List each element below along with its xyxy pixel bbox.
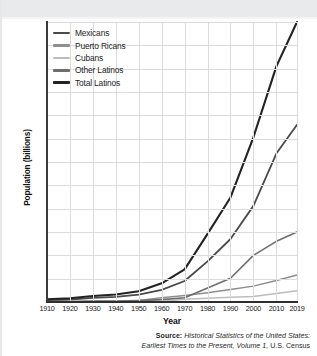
legend-label: Total Latinos [75, 78, 120, 88]
source-note: Source: Historical Statistics of the Uni… [110, 331, 316, 351]
x-axis-line [46, 301, 298, 303]
source-label: Source: [156, 332, 182, 340]
gridline-vertical [185, 22, 186, 302]
legend-item[interactable]: Total Latinos [53, 77, 165, 89]
legend-swatch-icon [53, 69, 70, 71]
gridline-vertical [276, 22, 277, 302]
legend-item[interactable]: Puerto Ricans [53, 39, 165, 51]
chart-legend: MexicansPuerto RicansCubansOther Latinos… [53, 27, 165, 89]
legend-swatch-icon [53, 57, 70, 59]
chart-page: 051015202530354045505560 191019201930194… [0, 0, 317, 356]
x-axis-title: Year [47, 316, 297, 326]
y-axis-title: Population (billions) [23, 93, 32, 243]
gridline-horizontal [47, 162, 297, 163]
gridline-horizontal [47, 92, 297, 93]
gridline-horizontal [47, 279, 297, 280]
legend-item[interactable]: Cubans [53, 52, 165, 64]
gridline-vertical [208, 22, 209, 302]
line-chart-figure: 051015202530354045505560 191019201930194… [0, 0, 317, 356]
series-line [47, 232, 297, 302]
source-title-line2: Earliest Times to the Present, Volume 1, [142, 342, 269, 350]
legend-label: Puerto Ricans [75, 41, 126, 51]
legend-label: Cubans [75, 53, 103, 63]
legend-label: Mexicans [75, 28, 109, 38]
gridline-horizontal [47, 22, 297, 23]
gridline-horizontal [47, 185, 297, 186]
gridline-horizontal [47, 255, 297, 256]
legend-swatch-icon [53, 44, 70, 46]
gridline-horizontal [47, 115, 297, 116]
gridline-vertical [253, 22, 254, 302]
gridline-horizontal [47, 232, 297, 233]
source-title-line1: Historical Statistics of the United Stat… [184, 332, 310, 340]
series-line [47, 125, 297, 300]
gridline-horizontal [47, 209, 297, 210]
legend-item[interactable]: Other Latinos [53, 64, 165, 76]
legend-label: Other Latinos [75, 65, 123, 75]
gridline-vertical [230, 22, 231, 302]
legend-item[interactable]: Mexicans [53, 27, 165, 39]
legend-swatch-icon [53, 32, 70, 34]
source-publisher: U.S. Census [268, 342, 310, 350]
y-axis-line [46, 21, 48, 303]
gridline-vertical [297, 22, 298, 302]
legend-swatch-icon [53, 81, 70, 84]
x-tick-label: 2019 [282, 304, 312, 313]
gridline-horizontal [47, 139, 297, 140]
